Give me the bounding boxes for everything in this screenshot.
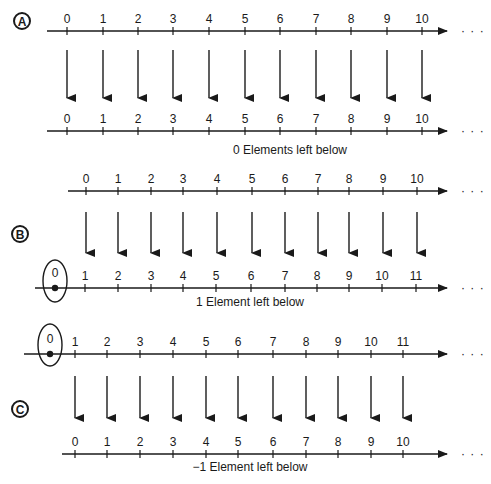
continuation-dots: · · · [461,347,485,361]
panel-label-badge: B [12,226,28,242]
top-line: 012345678910· · · [68,172,485,198]
tick-label: 10 [364,335,378,349]
tick-label: 3 [180,172,187,186]
tick-label: 4 [206,112,213,126]
tick-label: 4 [170,335,177,349]
point-dot [52,285,58,291]
panel-label: B [16,228,25,242]
tick-label: 1 [100,12,107,26]
tick-label: 9 [368,435,375,449]
number-line-diagram: A012345678910· · ·012345678910· · ·0 Ele… [0,0,491,484]
tick-label: 5 [203,335,210,349]
continuation-dots: · · · [461,447,485,461]
tick-label: 9 [346,269,353,283]
panel-label: A [18,15,27,29]
tick-label: 9 [384,12,391,26]
tick-label: 2 [135,112,142,126]
panel-a: A012345678910· · ·012345678910· · ·0 Ele… [14,12,485,157]
tick-label: 2 [104,335,111,349]
top-line: 012345678910· · · [47,12,485,38]
tick-label: 7 [315,172,322,186]
panel-caption: −1 Element left below [192,460,307,474]
mapping-arrows [75,376,403,418]
continuation-dots: · · · [461,184,485,198]
panel-caption: 1 Element left below [196,295,304,309]
tick-label: 2 [137,435,144,449]
point-dot [47,351,53,357]
tick-label: 4 [180,269,187,283]
tick-label: 0 [64,112,71,126]
tick-label: 7 [303,435,310,449]
continuation-dots: · · · [461,24,485,38]
tick-label: 1 [100,112,107,126]
tick-label: 4 [214,172,221,186]
tick-label: 10 [410,172,424,186]
bottom-line: 012345678910· · · [47,112,485,138]
panel-caption: 0 Elements left below [233,143,347,157]
tick-label: 8 [314,269,321,283]
panel-label-badge: A [14,13,30,29]
panel-label-badge: C [12,401,28,417]
mapping-arrows [86,212,417,253]
tick-label: 9 [335,335,342,349]
tick-label: 0 [83,172,90,186]
tick-label: 5 [249,172,256,186]
tick-label: 7 [313,12,320,26]
tick-label: 8 [346,172,353,186]
tick-label: 6 [277,12,284,26]
circled-zero-label: 0 [47,332,54,346]
tick-label: 6 [248,269,255,283]
circled-zero-label: 0 [52,266,59,280]
panel-c: C12345678910110· · ·012345678910· · ·−1 … [12,324,485,474]
tick-label: 1 [82,269,89,283]
tick-label: 7 [313,112,320,126]
tick-label: 4 [206,12,213,26]
tick-label: 1 [104,435,111,449]
tick-label: 8 [303,335,310,349]
tick-label: 0 [64,12,71,26]
tick-label: 3 [137,335,144,349]
tick-label: 11 [397,335,410,349]
tick-label: 4 [203,435,210,449]
tick-label: 6 [277,112,284,126]
tick-label: 1 [115,172,122,186]
tick-label: 8 [348,12,355,26]
tick-label: 6 [270,435,277,449]
tick-label: 3 [170,435,177,449]
tick-label: 9 [384,112,391,126]
tick-label: 7 [282,269,289,283]
tick-label: 5 [235,435,242,449]
tick-label: 1 [72,335,79,349]
bottom-line: 012345678910· · · [62,435,485,461]
panel-label: C [16,403,25,417]
panel-b: B012345678910· · ·12345678910110· · ·1 E… [12,172,485,309]
tick-label: 8 [335,435,342,449]
tick-label: 0 [72,435,79,449]
tick-label: 5 [242,12,249,26]
tick-label: 7 [270,335,277,349]
tick-label: 11 [410,269,423,283]
tick-label: 5 [213,269,220,283]
tick-label: 3 [148,269,155,283]
top-line: 12345678910110· · · [24,324,485,366]
tick-label: 3 [170,112,177,126]
tick-label: 5 [242,112,249,126]
tick-label: 10 [415,112,429,126]
tick-label: 9 [380,172,387,186]
tick-label: 2 [115,269,122,283]
tick-label: 10 [396,435,410,449]
tick-label: 10 [375,269,389,283]
tick-label: 6 [235,335,242,349]
continuation-dots: · · · [461,281,485,295]
continuation-dots: · · · [461,124,485,138]
tick-label: 2 [135,12,142,26]
tick-label: 2 [148,172,155,186]
tick-label: 10 [415,12,429,26]
mapping-arrows [67,50,422,98]
tick-label: 8 [348,112,355,126]
tick-label: 3 [170,12,177,26]
tick-label: 6 [282,172,289,186]
